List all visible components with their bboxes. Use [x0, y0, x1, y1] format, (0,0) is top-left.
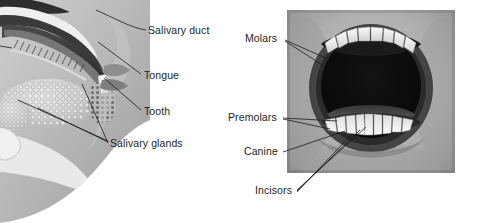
label-tooth: Tooth: [144, 106, 170, 117]
label-salivary-duct: Salivary duct: [148, 25, 209, 36]
upper-incisor-right: [371, 27, 383, 41]
head-section-art: [0, 0, 150, 224]
lower-premolar-right-1: [392, 116, 402, 132]
lower-incisor-left-2: [356, 114, 365, 135]
label-molars: Molars: [245, 33, 277, 44]
lower-canine-left: [346, 115, 356, 134]
label-incisors: Incisors: [255, 185, 292, 196]
open-mouth-photograph: [287, 10, 455, 173]
label-salivary-glands: Salivary glands: [110, 138, 183, 149]
label-canine: Canine: [244, 146, 278, 157]
lower-canine-right: [383, 115, 392, 134]
lower-premolar-left-1: [336, 116, 346, 132]
label-premolars: Premolars: [228, 112, 277, 123]
upper-premolar-right: [383, 28, 394, 43]
lower-incisor-left-1: [365, 114, 373, 135]
upper-premolar-left: [347, 28, 358, 43]
sagittal-section-diagram: [0, 0, 150, 224]
upper-incisor-left: [358, 27, 370, 41]
mouth-anatomy-figure: Salivary duct Tongue Tooth Salivary glan…: [0, 0, 479, 224]
label-tongue: Tongue: [144, 70, 179, 81]
lower-incisor-right-1: [374, 114, 382, 135]
